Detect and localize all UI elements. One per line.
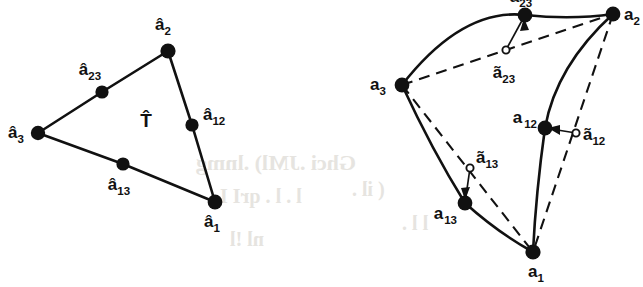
label-tilde-a13: ã13	[476, 148, 498, 170]
node-a23	[518, 8, 533, 23]
node-a12	[538, 121, 553, 136]
node-tilde-a13	[466, 164, 473, 171]
label-a1: a1	[528, 262, 544, 284]
figure-canvas: â3 â2 â1 â12 â13 â23 T̂	[0, 0, 643, 287]
label-ref-a23: â23	[79, 60, 101, 82]
connector-arrowheads	[461, 18, 560, 200]
label-tilde-a12: ã12	[583, 125, 605, 147]
label-ref-a12: â12	[203, 105, 225, 127]
label-a12: a12	[513, 108, 537, 130]
node-ref-a3	[31, 126, 45, 140]
label-ref-a2: â2	[155, 15, 171, 37]
node-ref-a23	[95, 85, 108, 98]
label-a13: a13	[434, 204, 457, 226]
node-ref-a13	[116, 157, 129, 170]
node-a13	[458, 196, 473, 211]
reference-triangle-panel: â3 â2 â1 â12 â13 â23 T̂	[8, 15, 225, 234]
label-ref-a1: â1	[204, 212, 220, 234]
curved-triangle-panel: a3 a2 a1 a12 a13 a23 ã12 ã13 ã23	[370, 0, 640, 284]
node-a3	[395, 78, 410, 93]
label-tilde-a23: ã23	[493, 63, 515, 85]
label-a23: a23	[510, 0, 532, 9]
label-a3: a3	[370, 75, 386, 97]
node-tilde-a12	[572, 129, 579, 136]
label-region-T-hat: T̂	[140, 110, 152, 131]
node-ref-a2	[160, 43, 175, 58]
label-ref-a3: â3	[8, 123, 24, 145]
label-a2: a2	[624, 5, 640, 27]
node-a1	[525, 244, 540, 259]
node-tilde-a23	[502, 46, 509, 53]
node-a2	[606, 7, 621, 22]
node-ref-a12	[185, 118, 198, 131]
label-ref-a13: â13	[108, 175, 130, 197]
node-ref-a1	[208, 195, 223, 210]
